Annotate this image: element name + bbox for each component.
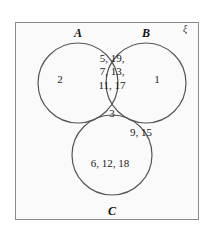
region-b-only: 1 <box>143 73 171 86</box>
region-a-and-b-only: 5, 19, 7, 13, 11, 17 <box>83 52 141 92</box>
region-a-and-b-and-c: 3 <box>98 107 126 120</box>
region-a-only: 2 <box>46 73 74 86</box>
set-label-a: A <box>68 27 88 39</box>
region-b-and-c-only: 9, 15 <box>119 126 163 139</box>
region-c-only: 6, 12, 18 <box>76 157 144 170</box>
set-label-c: C <box>102 205 122 217</box>
venn-diagram: ξ A B C 2 1 5, 19, 7, 13, 11, 17 3 9, 15… <box>0 0 216 236</box>
set-label-b: B <box>136 27 156 39</box>
